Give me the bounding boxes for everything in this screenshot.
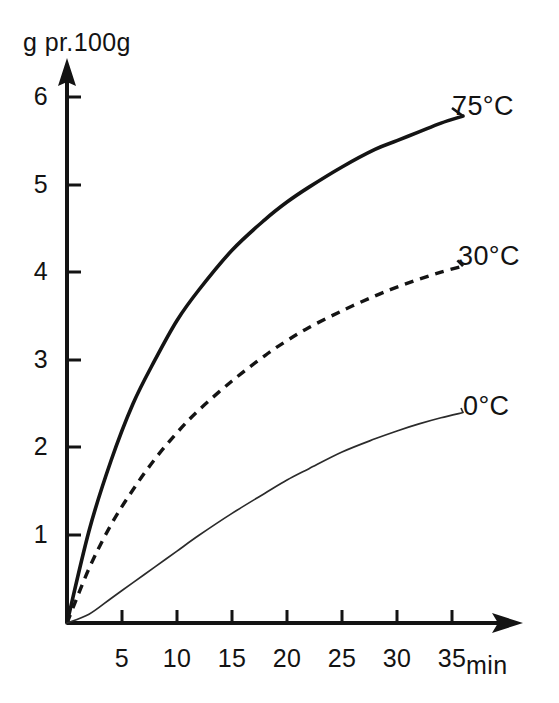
y-tick-label-2: 2 [14, 432, 48, 461]
y-tick-label-6: 6 [14, 82, 48, 111]
series-line-30c [67, 266, 463, 623]
y-tick-label-4: 4 [14, 257, 48, 286]
series-line-75c [67, 116, 463, 623]
y-tick-label-5: 5 [14, 170, 48, 199]
chart-figure: g pr.100g min 6 5 4 3 2 1 5 10 15 20 25 … [0, 0, 559, 703]
x-tick-label-25: 25 [319, 644, 365, 673]
series-label-0c: 0°C [463, 391, 510, 422]
x-tick-label-20: 20 [264, 644, 310, 673]
x-tick-label-35: 35 [429, 644, 475, 673]
x-axis [67, 610, 523, 633]
x-tick-label-10: 10 [154, 644, 200, 673]
y-axis [58, 58, 81, 623]
series-line-0c [67, 413, 463, 623]
x-tick-label-15: 15 [209, 644, 255, 673]
x-tick-label-5: 5 [99, 644, 145, 673]
x-tick-label-30: 30 [374, 644, 420, 673]
series-label-30c: 30°C [458, 241, 520, 272]
series-label-75c: 75°C [452, 91, 514, 122]
y-tick-label-1: 1 [14, 520, 48, 549]
y-tick-label-3: 3 [14, 345, 48, 374]
y-axis-title: g pr.100g [23, 28, 131, 57]
